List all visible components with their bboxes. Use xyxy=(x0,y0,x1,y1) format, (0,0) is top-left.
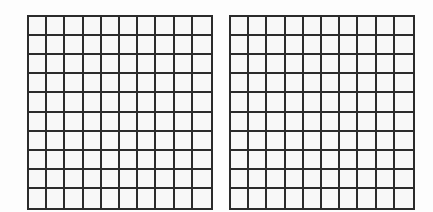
grid-cell xyxy=(286,189,304,208)
grid-cell xyxy=(231,55,249,74)
grid-cell xyxy=(193,93,211,112)
grid-cell xyxy=(138,17,156,36)
grid-cell xyxy=(175,132,193,151)
grid-cell xyxy=(322,151,340,170)
grid-cell xyxy=(65,17,83,36)
grid-cell xyxy=(358,36,376,55)
grid-cell xyxy=(29,17,47,36)
grid-cell xyxy=(358,189,376,208)
grid-cell xyxy=(286,93,304,112)
grid-cell xyxy=(175,170,193,189)
grid-cell xyxy=(102,170,120,189)
grid-cell xyxy=(286,17,304,36)
grid-cell xyxy=(267,113,285,132)
grid-cell xyxy=(340,132,358,151)
grid-cell xyxy=(102,151,120,170)
grid-cell xyxy=(304,113,322,132)
grid-cell xyxy=(267,189,285,208)
grid-cell xyxy=(322,17,340,36)
grid-cell xyxy=(65,93,83,112)
left-hundred-grid xyxy=(27,15,213,210)
grid-cell xyxy=(340,113,358,132)
grid-cell xyxy=(47,17,65,36)
grid-cell xyxy=(340,74,358,93)
grid-cell xyxy=(84,93,102,112)
grid-cell xyxy=(65,36,83,55)
grid-cell xyxy=(304,55,322,74)
grid-cell xyxy=(377,17,395,36)
grid-cell xyxy=(156,55,174,74)
grid-cell xyxy=(175,36,193,55)
grid-cell xyxy=(267,93,285,112)
grid-cell xyxy=(358,113,376,132)
grid-cell xyxy=(120,189,138,208)
grid-cell xyxy=(377,189,395,208)
grid-cell xyxy=(377,151,395,170)
grid-cell xyxy=(286,113,304,132)
grid-cell xyxy=(358,170,376,189)
grid-cell xyxy=(377,113,395,132)
grid-cell xyxy=(47,55,65,74)
grid-cell xyxy=(29,132,47,151)
grid-cell xyxy=(65,113,83,132)
grid-cell xyxy=(47,93,65,112)
grid-cell xyxy=(322,93,340,112)
grid-cell xyxy=(84,17,102,36)
grid-cell xyxy=(304,170,322,189)
grid-cell xyxy=(395,55,413,74)
grid-cell xyxy=(193,151,211,170)
grid-cell xyxy=(358,132,376,151)
grid-cell xyxy=(29,55,47,74)
grid-cell xyxy=(267,74,285,93)
grid-cell xyxy=(138,113,156,132)
right-hundred-grid xyxy=(229,15,415,210)
grid-cell xyxy=(267,36,285,55)
grid-cell xyxy=(175,151,193,170)
grid-cell xyxy=(102,189,120,208)
grid-cell xyxy=(175,93,193,112)
grid-cell xyxy=(231,74,249,93)
grid-cell xyxy=(102,17,120,36)
grid-cell xyxy=(231,170,249,189)
grid-cell xyxy=(120,132,138,151)
grid-cell xyxy=(322,55,340,74)
grid-cell xyxy=(193,36,211,55)
grid-cell xyxy=(249,113,267,132)
grid-cell xyxy=(304,189,322,208)
grid-cell xyxy=(231,17,249,36)
grid-cell xyxy=(340,170,358,189)
grid-cell xyxy=(138,189,156,208)
grid-cell xyxy=(156,170,174,189)
grid-cell xyxy=(286,132,304,151)
grid-cell xyxy=(231,93,249,112)
grid-cell xyxy=(138,36,156,55)
grid-cell xyxy=(84,113,102,132)
grid-cell xyxy=(120,55,138,74)
grid-cell xyxy=(29,189,47,208)
grid-cell xyxy=(377,55,395,74)
grid-cell xyxy=(322,74,340,93)
grid-cell xyxy=(156,113,174,132)
grid-cell xyxy=(249,170,267,189)
grid-cell xyxy=(267,170,285,189)
grid-cell xyxy=(29,93,47,112)
grid-cell xyxy=(156,17,174,36)
grid-cell xyxy=(47,151,65,170)
grid-cell xyxy=(231,151,249,170)
grid-cell xyxy=(47,74,65,93)
grid-cell xyxy=(47,36,65,55)
grid-cell xyxy=(249,74,267,93)
grid-cell xyxy=(395,93,413,112)
grid-cell xyxy=(377,36,395,55)
grid-cell xyxy=(65,189,83,208)
grid-cell xyxy=(29,170,47,189)
grid-cell xyxy=(84,74,102,93)
grid-cell xyxy=(322,170,340,189)
grid-cell xyxy=(175,74,193,93)
grid-cell xyxy=(377,170,395,189)
grid-cell xyxy=(322,36,340,55)
grid-cell xyxy=(102,93,120,112)
grid-cell xyxy=(249,93,267,112)
grid-cell xyxy=(358,151,376,170)
grid-cell xyxy=(65,74,83,93)
